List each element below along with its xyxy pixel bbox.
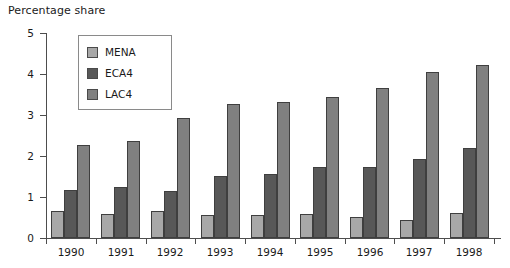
x-axis-tick — [146, 239, 147, 244]
bar-lac4-1993 — [227, 104, 240, 238]
x-axis-tick — [195, 239, 196, 244]
bar-lac4-1990 — [77, 145, 90, 238]
legend-label: ECA4 — [105, 67, 133, 79]
y-axis-tick-label: 1 — [0, 191, 34, 203]
x-axis-tick-label: 1993 — [207, 246, 234, 258]
x-axis-tick — [345, 239, 346, 244]
bar-mena-1993 — [201, 215, 214, 238]
x-axis-tick-label: 1998 — [456, 246, 483, 258]
bar-eca4-1990 — [64, 190, 77, 238]
bar-mena-1998 — [450, 213, 463, 238]
bar-chart: Percentage share 012345 1990199119921993… — [0, 0, 510, 268]
x-axis-tick — [494, 239, 495, 244]
legend-swatch-icon — [87, 89, 98, 100]
x-axis-tick-label: 1995 — [307, 246, 334, 258]
x-axis-tick — [245, 239, 246, 244]
y-axis-tick-label: 5 — [0, 27, 34, 39]
bar-mena-1991 — [101, 214, 114, 238]
y-axis-tick-label: 4 — [0, 68, 34, 80]
bar-eca4-1991 — [114, 187, 127, 238]
chart-legend: MENAECA4LAC4 — [78, 35, 172, 110]
bar-mena-1996 — [350, 217, 363, 238]
bar-mena-1992 — [151, 211, 164, 238]
bar-mena-1990 — [51, 211, 64, 238]
legend-item-eca4: ECA4 — [87, 65, 133, 81]
y-axis-tick-label: 0 — [0, 232, 34, 244]
x-axis-tick — [394, 239, 395, 244]
x-axis-tick-label: 1990 — [58, 246, 85, 258]
x-axis-tick-label: 1996 — [357, 246, 384, 258]
y-axis-tick-label: 3 — [0, 109, 34, 121]
bar-lac4-1997 — [426, 72, 439, 238]
x-axis-tick — [46, 239, 47, 244]
bar-mena-1995 — [300, 214, 313, 238]
legend-item-mena: MENA — [87, 44, 136, 60]
legend-label: MENA — [105, 46, 136, 58]
bar-eca4-1992 — [164, 191, 177, 238]
bar-mena-1997 — [400, 220, 413, 238]
bar-eca4-1994 — [264, 174, 277, 238]
bar-eca4-1997 — [413, 159, 426, 238]
x-axis-tick-label: 1994 — [257, 246, 284, 258]
bar-lac4-1995 — [326, 97, 339, 238]
x-axis-line — [46, 238, 501, 239]
legend-swatch-icon — [87, 47, 98, 58]
chart-title: Percentage share — [8, 4, 105, 17]
bar-eca4-1993 — [214, 176, 227, 238]
bar-mena-1994 — [251, 215, 264, 238]
bar-lac4-1992 — [177, 118, 190, 238]
bar-lac4-1998 — [476, 65, 489, 238]
bar-lac4-1996 — [376, 88, 389, 238]
bar-lac4-1991 — [127, 141, 140, 238]
legend-swatch-icon — [87, 68, 98, 79]
x-axis-tick — [444, 239, 445, 244]
bar-eca4-1995 — [313, 167, 326, 238]
y-axis-tick-label: 2 — [0, 150, 34, 162]
legend-label: LAC4 — [105, 88, 132, 100]
bar-eca4-1996 — [363, 167, 376, 238]
x-axis-tick — [295, 239, 296, 244]
x-axis-tick — [96, 239, 97, 244]
x-axis-tick-label: 1992 — [157, 246, 184, 258]
legend-item-lac4: LAC4 — [87, 86, 132, 102]
x-axis-tick-label: 1997 — [406, 246, 433, 258]
x-axis-tick-label: 1991 — [108, 246, 135, 258]
bar-lac4-1994 — [277, 102, 290, 238]
bar-eca4-1998 — [463, 148, 476, 238]
